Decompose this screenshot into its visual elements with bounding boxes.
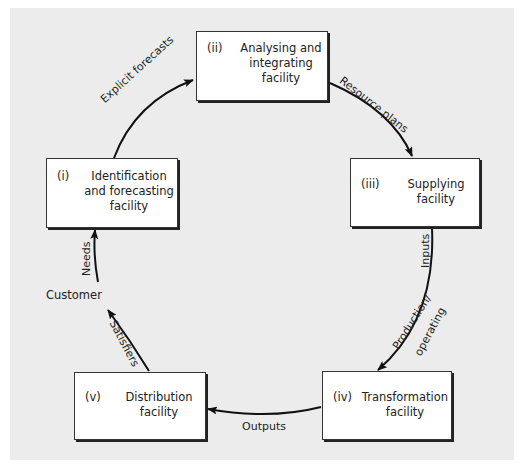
arrow-outputs [208, 407, 321, 414]
node-number: (iii) [361, 177, 380, 192]
customer-node: Customer [46, 288, 102, 302]
label-outputs: Outputs [242, 420, 286, 433]
label-needs: Needs [80, 242, 93, 276]
node-number: (iv) [333, 390, 352, 405]
node-number: (v) [85, 390, 101, 405]
node-label: Analysing and integrating facility [237, 41, 325, 86]
node-number: (i) [57, 169, 69, 184]
node-label: Distribution facility [115, 390, 203, 420]
node-identification-forecasting: (i) Identification and forecasting facil… [46, 158, 178, 228]
arrow-explicit-forecasts [114, 80, 193, 158]
node-label: Identification and forecasting facility [81, 169, 177, 214]
node-transformation: (iv) Transformation facility [322, 371, 452, 440]
node-analysing-integrating: (ii) Analysing and integrating facility [196, 31, 328, 101]
label-inputs: Inputs [419, 234, 432, 268]
node-number: (ii) [207, 41, 222, 56]
node-label: Supplying facility [395, 177, 477, 207]
arrow-needs [94, 230, 98, 282]
node-supplying: (iii) Supplying facility [350, 158, 480, 227]
node-distribution: (v) Distribution facility [74, 372, 206, 440]
node-label: Transformation facility [359, 390, 451, 420]
